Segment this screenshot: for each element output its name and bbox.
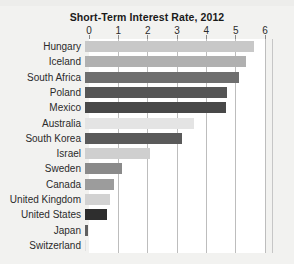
bar-row: South Africa bbox=[0, 70, 294, 85]
category-label-sweden: Sweden bbox=[0, 163, 85, 174]
bar-iceland bbox=[85, 56, 246, 67]
bar-mexico bbox=[85, 102, 226, 113]
bar-row: Australia bbox=[0, 115, 294, 130]
bar-track bbox=[85, 238, 261, 253]
bar-south-africa bbox=[85, 72, 239, 83]
category-label-south-korea: South Korea bbox=[0, 133, 85, 144]
bar-row: Iceland bbox=[0, 54, 294, 69]
bar-rows: HungaryIcelandSouth AfricaPolandMexicoAu… bbox=[0, 39, 294, 253]
category-label-united-kingdom: United Kingdom bbox=[0, 194, 85, 205]
category-label-mexico: Mexico bbox=[0, 102, 85, 113]
category-label-south-africa: South Africa bbox=[0, 72, 85, 83]
bar-track bbox=[85, 222, 261, 237]
bar-track bbox=[85, 39, 261, 54]
bar-row: Israel bbox=[0, 146, 294, 161]
category-label-canada: Canada bbox=[0, 179, 85, 190]
bar-poland bbox=[85, 87, 227, 98]
category-label-japan: Japan bbox=[0, 225, 85, 236]
bar-sweden bbox=[85, 163, 122, 174]
category-label-switzerland: Switzerland bbox=[0, 240, 85, 251]
bar-row: Canada bbox=[0, 177, 294, 192]
bar-row: South Korea bbox=[0, 131, 294, 146]
bar-south-korea bbox=[85, 133, 182, 144]
bar-canada bbox=[85, 179, 114, 190]
bar-track bbox=[85, 70, 261, 85]
bar-united-kingdom bbox=[85, 194, 110, 205]
chart-figure: Short-Term Interest Rate, 2012 0123456 H… bbox=[0, 0, 294, 264]
bar-row: Japan bbox=[0, 222, 294, 237]
bar-row: United Kingdom bbox=[0, 192, 294, 207]
bar-israel bbox=[85, 148, 150, 159]
bar-track bbox=[85, 146, 261, 161]
bar-row: Poland bbox=[0, 85, 294, 100]
bar-track bbox=[85, 207, 261, 222]
bar-row: Switzerland bbox=[0, 238, 294, 253]
bar-row: Mexico bbox=[0, 100, 294, 115]
bar-japan bbox=[85, 225, 88, 236]
bar-row: Sweden bbox=[0, 161, 294, 176]
category-label-israel: Israel bbox=[0, 148, 85, 159]
category-label-hungary: Hungary bbox=[0, 41, 85, 52]
bar-row: Hungary bbox=[0, 39, 294, 54]
bar-track bbox=[85, 115, 261, 130]
bar-track bbox=[85, 85, 261, 100]
bar-switzerland bbox=[85, 240, 86, 251]
page-margin bbox=[0, 0, 294, 6]
category-label-united-states: United States bbox=[0, 209, 85, 220]
bar-track bbox=[85, 161, 261, 176]
bar-hungary bbox=[85, 41, 254, 52]
bar-track bbox=[85, 100, 261, 115]
bar-track bbox=[85, 54, 261, 69]
bar-track bbox=[85, 177, 261, 192]
bar-australia bbox=[85, 118, 194, 129]
category-label-iceland: Iceland bbox=[0, 56, 85, 67]
chart-title: Short-Term Interest Rate, 2012 bbox=[0, 11, 294, 23]
bar-track bbox=[85, 131, 261, 146]
category-label-poland: Poland bbox=[0, 87, 85, 98]
bar-track bbox=[85, 192, 261, 207]
bar-row: United States bbox=[0, 207, 294, 222]
bar-united-states bbox=[85, 209, 107, 220]
category-label-australia: Australia bbox=[0, 118, 85, 129]
